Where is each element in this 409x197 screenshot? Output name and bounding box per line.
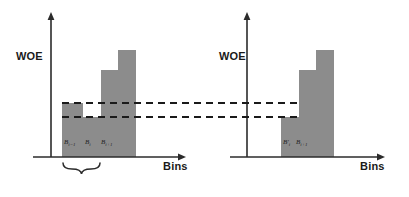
bin-label-b-i: Bi xyxy=(85,139,91,147)
y-axis-right xyxy=(244,12,251,157)
bin-label-subscript: i xyxy=(289,142,290,147)
bar-b-i xyxy=(83,117,101,157)
bin-label-b-i-plus-1-right: Bi+1 xyxy=(296,139,308,147)
woe-binning-figure: WOE Bins WOE Bins Bi−1 Bi Bi+1 B′i Bi+1 xyxy=(0,0,409,197)
x-axis-label-left: Bins xyxy=(163,160,188,172)
bin-label-b-i-minus-1: Bi−1 xyxy=(64,139,76,147)
bar-b-tall-right xyxy=(316,50,334,157)
bar-b-i-prime xyxy=(281,117,299,157)
y-axis-label-right: WOE xyxy=(219,50,246,62)
figure-canvas xyxy=(0,0,409,197)
bin-label-subscript: i xyxy=(89,142,90,147)
bar-b-i-minus-1 xyxy=(62,103,83,157)
bin-label-b-i-prime: B′i xyxy=(283,139,290,147)
bin-label-subscript: i−1 xyxy=(68,142,75,147)
bin-label-subscript: i+1 xyxy=(105,142,112,147)
bin-label-b-i-plus-1: Bi+1 xyxy=(101,139,113,147)
x-axis-label-right: Bins xyxy=(360,160,385,172)
panel-left xyxy=(33,12,186,174)
y-axis-left xyxy=(48,12,55,157)
bin-label-subscript: i+1 xyxy=(300,142,307,147)
dashed-connectors xyxy=(62,103,300,117)
y-axis-label-left: WOE xyxy=(16,50,43,62)
merge-brace xyxy=(63,163,100,174)
